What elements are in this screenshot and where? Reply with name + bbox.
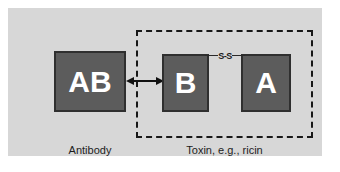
toxin-a-chain-box-label: A	[255, 68, 277, 98]
toxin-caption: Toxin, e.g., ricin	[158, 144, 291, 156]
disulfide-bond-label: S-S	[218, 52, 232, 61]
antibody-ab-box: AB	[54, 51, 126, 112]
disulfide-bond-icon: S-S	[205, 48, 245, 64]
binding-double-arrow-icon	[126, 74, 164, 88]
figure-background-panel: AB B S-S A Antibody Toxin, e.g., ricin	[8, 8, 322, 156]
figure-root: AB B S-S A Antibody Toxin, e.g., ricin	[0, 0, 340, 172]
antibody-ab-box-label: AB	[68, 67, 111, 97]
double-arrow-svg	[126, 74, 164, 88]
antibody-caption: Antibody	[54, 144, 126, 156]
toxin-b-chain-box-label: B	[175, 68, 197, 98]
toxin-a-chain-box: A	[241, 54, 291, 112]
toxin-b-chain-box: B	[162, 54, 209, 112]
